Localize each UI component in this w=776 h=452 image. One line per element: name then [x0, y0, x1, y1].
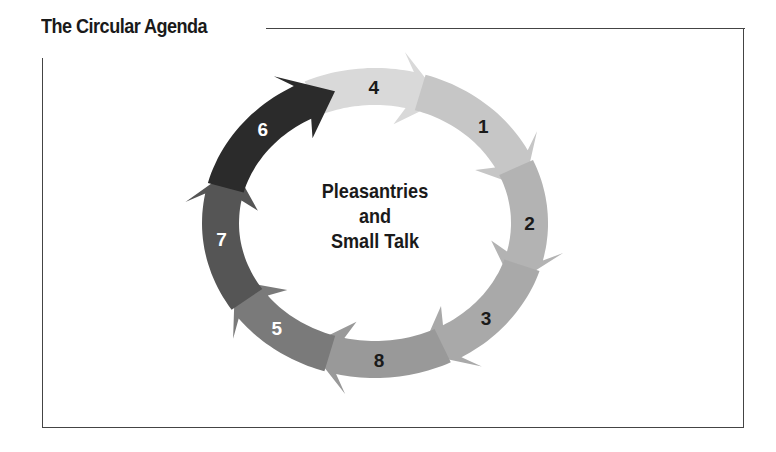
center-label-line-1: Pleasantries: [289, 178, 461, 203]
ring-segment-label-1: 1: [478, 116, 489, 137]
ring-segment-label-5: 5: [271, 318, 282, 339]
ring-segment-label-4: 4: [368, 77, 379, 98]
ring-segment-label-2: 2: [524, 213, 535, 234]
ring-segment-label-3: 3: [481, 308, 492, 329]
center-label-line-2: and: [289, 203, 461, 228]
center-label-line-3: Small Talk: [289, 228, 461, 253]
ring-segment-arrow-6: [208, 76, 335, 192]
ring-segment-label-7: 7: [216, 229, 227, 250]
center-label: Pleasantries and Small Talk: [289, 178, 461, 253]
ring-segment-label-6: 6: [258, 119, 269, 140]
ring-segment-label-8: 8: [374, 350, 385, 371]
